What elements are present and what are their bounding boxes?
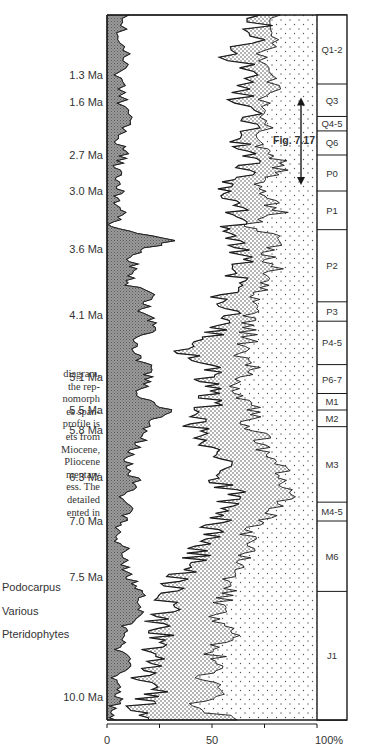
zone-label: Q1-2 <box>321 44 342 55</box>
zone-label: P6-7 <box>322 374 342 385</box>
pollen-diagram: Q1-2Q3Q4-5Q6P0P1P2P3P4-5P6-7M1M2M3M4-5M6… <box>0 0 368 754</box>
zone-label: J1 <box>327 650 337 661</box>
zone-label: M2 <box>325 413 338 424</box>
zone-label: Q3 <box>326 95 339 106</box>
zone-label: P4-5 <box>322 337 342 348</box>
zone-label: P2 <box>326 260 338 271</box>
zone-label: M4-5 <box>321 506 343 517</box>
x-tick-label: 100% <box>315 734 343 746</box>
zone-label: Q6 <box>326 137 339 148</box>
zone-label: P0 <box>326 168 338 179</box>
figure-reference-label: Fig. 7.17 <box>273 134 315 146</box>
zone-label: M6 <box>325 551 338 562</box>
x-tick-label: 50 <box>206 734 218 746</box>
zone-label: Q4-5 <box>321 118 342 129</box>
zone-label: M1 <box>325 396 338 407</box>
x-tick-label: 0 <box>104 734 110 746</box>
zone-label: P1 <box>326 205 338 216</box>
zone-label: P3 <box>326 306 338 317</box>
zone-label: M3 <box>325 459 338 470</box>
